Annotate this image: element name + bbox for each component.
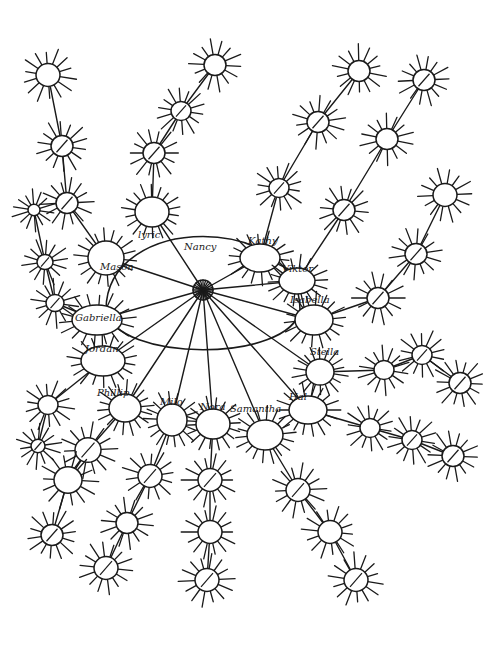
sociogram-diagram: lyricNancyKathyViktorIsabellaStellaHalSa… [0, 0, 501, 647]
unlabeled-node [436, 360, 483, 406]
node-samantha [236, 406, 296, 464]
node-label-samantha: Samantha [230, 403, 281, 414]
unlabeled-node [273, 463, 327, 518]
node-label-nora: Nora [199, 401, 226, 412]
node-label-viktor: Viktor [282, 263, 314, 274]
node-label-kathy: Kathy [247, 235, 278, 246]
node-label-phillip: Phillip [96, 387, 130, 398]
node-label-nancy: Nancy [183, 241, 217, 252]
unlabeled-node [320, 186, 368, 234]
node-mason [74, 228, 137, 286]
node-label-milo: Milo [159, 396, 183, 407]
node-label-isabella: Isabella [289, 294, 330, 305]
unlabeled-node [157, 88, 204, 134]
unlabeled-node [398, 55, 449, 105]
unlabeled-node [293, 96, 346, 150]
unlabeled-node [39, 178, 94, 230]
node-hal [277, 382, 341, 436]
unlabeled-node [130, 130, 178, 177]
node-label-lyric: lyric [138, 229, 161, 240]
unlabeled-node [22, 240, 68, 285]
node-label-mason: Mason [99, 261, 134, 272]
unlabeled-node [26, 381, 74, 429]
node-label-hal: Hal [288, 391, 307, 402]
unlabeled-node [24, 49, 76, 101]
unlabeled-node [80, 542, 133, 594]
unlabeled-node [347, 406, 392, 451]
unlabeled-node [122, 453, 172, 500]
unlabeled-node [332, 44, 386, 95]
node-label-gabriella: Gabriella [75, 312, 122, 323]
node-jordan [67, 333, 136, 388]
edge-line [344, 139, 387, 210]
unlabeled-node [37, 122, 87, 171]
node-label-stella: Stella [310, 346, 339, 357]
unlabeled-node [418, 169, 472, 223]
unlabeled-node [257, 164, 301, 211]
unlabeled-node [189, 39, 241, 92]
unlabeled-node [352, 272, 406, 324]
unlabeled-node [388, 417, 436, 465]
unlabeled-node [328, 552, 383, 605]
unlabeled-node [428, 431, 477, 481]
unlabeled-node [181, 454, 234, 507]
unlabeled-node [301, 507, 353, 558]
unlabeled-node [28, 511, 75, 558]
node-label-jordan: Jordan [83, 343, 119, 354]
unlabeled-node [101, 497, 153, 549]
unlabeled-node [181, 506, 234, 559]
unlabeled-node [389, 229, 442, 280]
unlabeled-node [360, 113, 413, 165]
unlabeled-node [178, 554, 235, 607]
